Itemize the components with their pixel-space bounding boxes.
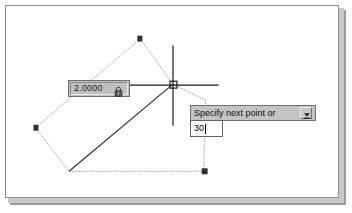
dynamic-input-field-value: 30 xyxy=(191,121,204,136)
grip-point-left[interactable] xyxy=(33,125,38,131)
cad-drawing-window: 2.0000 Specify next point or 30 xyxy=(5,5,339,198)
dimension-input-value: 2.0000 xyxy=(72,81,114,96)
dynamic-input-field[interactable]: 30 xyxy=(190,120,223,137)
cad-screenshot-figure: 2.0000 Specify next point or 30 xyxy=(0,0,352,213)
lock-icon xyxy=(114,83,123,94)
text-caret xyxy=(205,124,206,134)
dynamic-input-prompt: Specify next point or xyxy=(190,105,316,121)
tracking-polygon xyxy=(35,39,205,172)
dynamic-input-prompt-text: Specify next point or xyxy=(191,106,300,120)
rubber-band-line xyxy=(69,84,173,171)
grip-point-top[interactable] xyxy=(137,36,142,42)
grip-point-bottom-right[interactable] xyxy=(202,168,208,174)
chevron-down-icon[interactable] xyxy=(300,107,312,119)
drawing-canvas[interactable] xyxy=(6,6,338,197)
dimension-input[interactable]: 2.0000 xyxy=(68,80,130,97)
